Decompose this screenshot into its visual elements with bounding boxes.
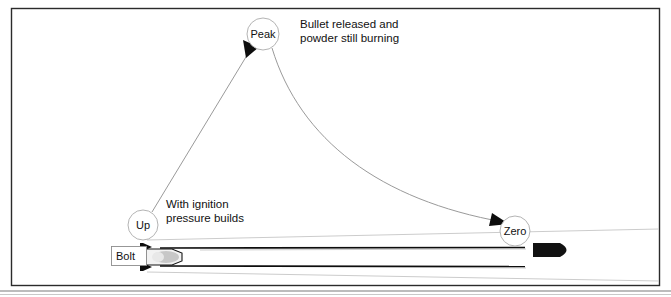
node-zero[interactable]: Zero [500, 216, 530, 246]
barrel-cone-lower-line [147, 272, 659, 281]
diagram-canvas: Up Peak Zero Bolt With ignition pressure… [0, 0, 671, 297]
falling-pressure-curve [272, 48, 503, 222]
bolt-label-box: Bolt [112, 247, 147, 266]
rising-pressure-line [152, 47, 252, 212]
barrel-wall-bottom [160, 266, 525, 267]
bullet-icon [533, 243, 567, 257]
figure-border [12, 9, 660, 286]
annotation-ignition: With ignition pressure builds [166, 198, 244, 224]
annotation-release: Bullet released and powder still burning [300, 18, 399, 44]
barrel-wall-top [160, 248, 525, 249]
barrel-assembly [140, 229, 659, 281]
annotation-ignition-line1: With ignition [166, 198, 229, 210]
diagram-figure: Up Peak Zero Bolt With ignition pressure… [0, 0, 671, 297]
node-peak[interactable]: Peak [247, 18, 279, 50]
annotation-release-line1: Bullet released and [300, 18, 398, 30]
bullet-projectile-icon [533, 243, 567, 257]
node-peak-label: Peak [250, 28, 276, 40]
bolt-label-text: Bolt [116, 250, 135, 262]
node-up[interactable]: Up [128, 210, 158, 240]
node-up-label: Up [136, 219, 150, 231]
barrel-bore-upper-guide [200, 249, 526, 250]
cartridge-primer-shading [152, 252, 164, 262]
node-zero-label: Zero [504, 225, 527, 237]
barrel-cone-upper-line [147, 229, 659, 240]
annotation-release-line2: powder still burning [300, 32, 399, 44]
annotation-ignition-line2: pressure builds [166, 212, 244, 224]
